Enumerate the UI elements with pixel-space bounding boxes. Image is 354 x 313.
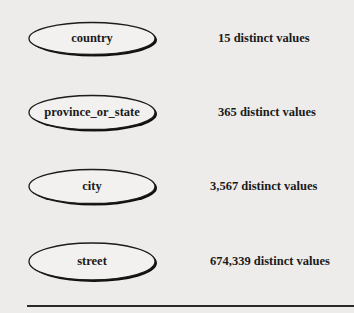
distinct-values-country: 15 distinct values [218, 31, 310, 45]
node-label-city: city [27, 179, 157, 193]
scanned-page: country province_or_state city street 15… [0, 0, 354, 313]
figure-bottom-rule [27, 305, 354, 307]
distinct-values-province-or-state: 365 distinct values [218, 105, 316, 119]
node-label-province-or-state: province_or_state [27, 105, 157, 119]
distinct-values-street: 674,339 distinct values [210, 254, 330, 268]
node-label-street: street [27, 254, 157, 268]
distinct-values-city: 3,567 distinct values [210, 179, 317, 193]
node-label-country: country [27, 31, 157, 45]
